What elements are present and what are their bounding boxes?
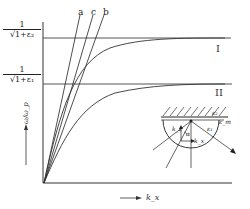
curve-I	[44, 38, 225, 183]
curve-I-roman: I	[216, 43, 220, 54]
inset-epsilon-m: ε_m	[219, 118, 231, 125]
level-lower-label: 1 √1+ε₁	[3, 66, 41, 84]
curve-II	[44, 84, 225, 183]
numerator: 1	[3, 21, 41, 29]
inset-kz: k_z	[172, 125, 182, 132]
light-line-a-label: a	[78, 8, 83, 17]
light-line-b-label: b	[103, 8, 109, 17]
denominator: √1+ε₁	[3, 74, 41, 84]
light-line-c	[44, 15, 93, 183]
inset-alpha: α	[186, 130, 190, 137]
denominator: √1+ε₂	[3, 29, 41, 39]
level-upper-label: 1 √1+ε₂	[3, 21, 41, 39]
inset-epsilon2: ε₂	[212, 109, 218, 116]
curve-II-roman: II	[215, 87, 223, 98]
x-axis-label: k_x	[146, 193, 159, 202]
numerator: 1	[3, 66, 41, 74]
light-line-c-label: c	[91, 8, 96, 17]
light-line-b	[44, 15, 104, 183]
inset-kx: k_x	[194, 137, 204, 144]
x-arrowhead-icon	[136, 196, 142, 200]
y-axis-label: ω/ω_p	[22, 102, 30, 124]
y-arrowhead-icon	[24, 124, 28, 130]
inset-epsilon1: ε₁	[207, 125, 213, 132]
